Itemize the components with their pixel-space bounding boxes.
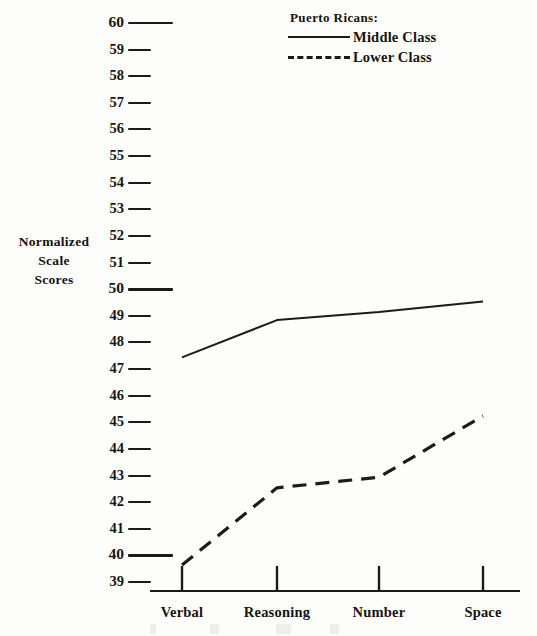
legend-entry-middle-class: Middle Class [288, 27, 518, 47]
plot-area [0, 0, 537, 636]
x-axis-label-verbal: Verbal [161, 601, 204, 623]
chart-figure: Normalized Scale Scores 6059585756555453… [0, 0, 537, 636]
legend-entry-label: Lower Class [350, 48, 432, 66]
x-axis-label-number: Number [353, 601, 406, 623]
plot-svg [0, 0, 537, 636]
x-axis-labels: VerbalReasoningNumberSpace [0, 601, 537, 625]
legend-line-sample-dashed-icon [288, 51, 350, 63]
chart-legend: Puerto Ricans: Middle Class Lower Class [288, 8, 518, 67]
legend-line-sample-solid-icon [288, 31, 350, 43]
series-line-middle-class [182, 302, 483, 358]
legend-entry-lower-class: Lower Class [288, 47, 518, 67]
scan-artifact [120, 624, 420, 634]
x-axis-label-space: Space [464, 601, 501, 623]
legend-entry-label: Middle Class [350, 28, 436, 46]
series-line-lower-class [182, 416, 483, 565]
x-axis-label-reasoning: Reasoning [244, 601, 310, 623]
legend-title: Puerto Ricans: [290, 8, 518, 27]
